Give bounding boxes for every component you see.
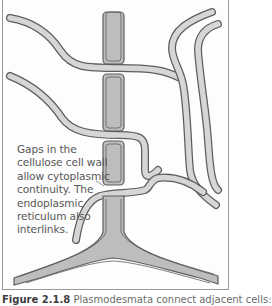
er-strand-right-inner bbox=[198, 24, 218, 190]
caption-text: Plasmodesmata connect adjacent cells: bbox=[73, 294, 271, 305]
annotation-line: reticulum also bbox=[17, 210, 117, 223]
er-strand-top bbox=[10, 18, 180, 78]
annotation-line: continuity. The bbox=[17, 183, 117, 196]
annotation-line: endoplasmic bbox=[17, 197, 117, 210]
annotation-text: Gaps in the cellulose cell wall allow cy… bbox=[17, 143, 117, 237]
caption-label: Figure 2.1.8 bbox=[2, 294, 70, 305]
figure-caption: Figure 2.1.8 Plasmodesmata connect adjac… bbox=[2, 294, 272, 306]
annotation-line: allow cytoplasmic bbox=[17, 170, 117, 183]
annotation-line: cellulose cell wall bbox=[17, 156, 117, 169]
annotation-line: Gaps in the bbox=[17, 143, 117, 156]
annotation-line: interlinks. bbox=[17, 223, 117, 236]
